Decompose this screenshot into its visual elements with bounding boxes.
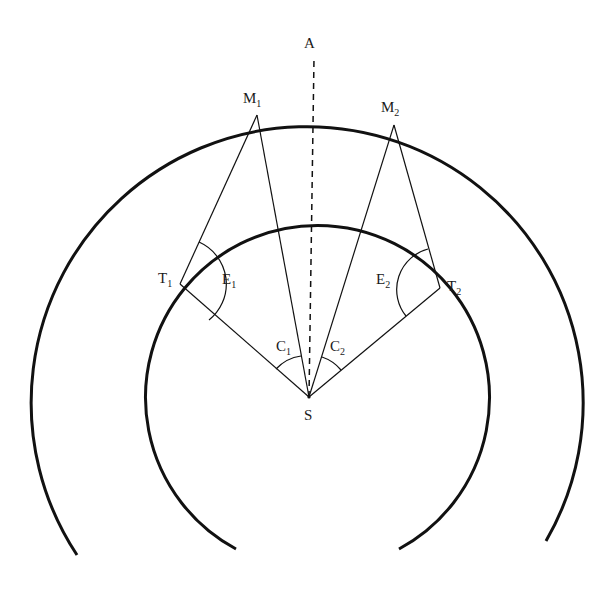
diagram-canvas: A M1 M2 T1 T2 E1 E2 C1 C2 S <box>0 0 613 604</box>
label-A: A <box>304 35 315 51</box>
inner-circle-arc <box>146 226 490 549</box>
angle-arc-C2 <box>322 357 341 370</box>
label-M2: M2 <box>381 99 399 118</box>
label-S: S <box>304 407 312 423</box>
label-T1: T1 <box>158 270 172 289</box>
label-E2: E2 <box>376 271 390 290</box>
line-M2-S <box>309 125 394 397</box>
line-T2-S <box>309 288 440 397</box>
label-E1: E1 <box>222 271 236 290</box>
line-T1-S <box>180 284 309 397</box>
label-C1: C1 <box>276 338 291 357</box>
point-S <box>307 395 310 398</box>
angle-arc-E2 <box>397 249 428 316</box>
axis-line-SA <box>309 58 314 397</box>
angle-arc-C1 <box>276 356 301 369</box>
label-C2: C2 <box>330 338 345 357</box>
outer-circle-arc <box>31 127 583 555</box>
label-M1: M1 <box>243 90 261 109</box>
line-M1-S <box>257 115 309 397</box>
